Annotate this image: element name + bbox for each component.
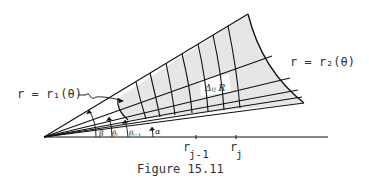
region-label: Δᵢⱼ R (204, 83, 226, 93)
inner-curve-label: r = r₁(θ) (17, 87, 82, 101)
axis-label-rjm1-sub: j-1 (189, 148, 209, 161)
angle-alpha: α (155, 127, 161, 136)
outer-curve-label: r = r₂(θ) (290, 55, 355, 69)
axis-label-rj-sub: j (236, 148, 243, 161)
shaded-region (118, 14, 304, 120)
angle-theta-i: θᵢ (112, 130, 118, 138)
polar-region-figure: r = r₁(θ) r = r₂(θ) Δᵢⱼ R β θᵢ θᵢ₋₁ α r … (0, 0, 369, 184)
figure-caption: Figure 15.11 (137, 162, 224, 176)
angle-beta: β (98, 129, 104, 138)
angle-theta-im1: θᵢ₋₁ (129, 130, 141, 138)
